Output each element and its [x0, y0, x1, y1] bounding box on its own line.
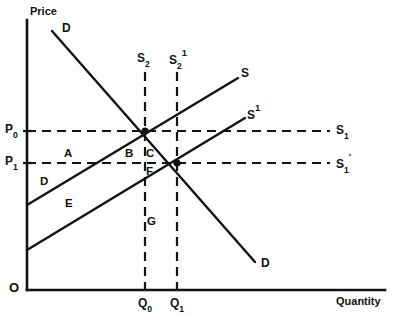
s1-label-base: S — [336, 123, 344, 137]
quantity-tick-sub-q1: 1 — [179, 304, 184, 314]
demand-curve-label-top: D — [62, 22, 71, 34]
price-tick-label-p1: P1 — [5, 155, 18, 170]
supply-demand-figure: Price Quantity O P0 P1 Q0 Q1 D D S S1 S1… — [0, 0, 401, 316]
price-tick-sub-p0: 0 — [13, 130, 18, 140]
s2-vertical-label: S2 — [137, 52, 150, 67]
s2-label-sub: 2 — [145, 59, 150, 69]
s2-prime-label-sup: 1 — [182, 48, 187, 58]
supply-prime-label-base: S — [247, 108, 255, 122]
x-axis-label: Quantity — [336, 296, 381, 307]
axes-group — [27, 20, 385, 290]
quantity-tick-base-q1: Q — [170, 296, 179, 310]
s1-horizontal-label: S1 — [336, 124, 349, 139]
region-label-e: E — [65, 198, 73, 210]
demand-label-base-top: D — [62, 21, 71, 35]
origin-label: O — [9, 281, 19, 294]
s1-prime-horizontal-label: S1′ — [336, 156, 351, 173]
region-label-d: D — [40, 176, 48, 188]
price-tick-sub-p1: 1 — [13, 162, 18, 172]
supply-label-base: S — [241, 66, 249, 80]
s2-prime-vertical-label: S21 — [169, 52, 187, 69]
region-label-b: B — [125, 148, 133, 160]
quantity-tick-label-q1: Q1 — [170, 297, 184, 312]
price-tick-base-p1: P — [5, 154, 13, 168]
equilibrium-point-e1 — [173, 159, 180, 166]
supply-curve-label: S — [241, 67, 249, 79]
quantity-tick-label-q0: Q0 — [138, 297, 152, 312]
s2-prime-label-sub: 2 — [177, 61, 182, 71]
region-label-g: G — [147, 216, 156, 228]
s1-prime-label-sub: 1 — [344, 165, 349, 175]
supply-prime-curve-label: S1 — [247, 107, 260, 121]
s2-prime-label-base: S — [169, 53, 177, 67]
s2-label-base: S — [137, 51, 145, 65]
quantity-tick-base-q0: Q — [138, 296, 147, 310]
y-axis-label: Price — [30, 6, 57, 17]
s1-prime-label-base: S — [336, 157, 344, 171]
region-label-f: F — [146, 166, 153, 178]
demand-curve-label-bottom: D — [261, 257, 270, 269]
s1-prime-label-sup: ′ — [349, 152, 351, 162]
s1-label-sub: 1 — [344, 131, 349, 141]
supply-prime-label-sup: 1 — [255, 103, 260, 113]
equilibrium-point-e0 — [141, 127, 148, 134]
quantity-tick-sub-q0: 0 — [147, 304, 152, 314]
region-label-a: A — [64, 148, 72, 160]
price-tick-label-p0: P0 — [5, 123, 18, 138]
region-label-c: C — [146, 148, 154, 160]
dashed-lines-group — [27, 72, 330, 290]
price-tick-base-p0: P — [5, 122, 13, 136]
demand-label-base-bottom: D — [261, 256, 270, 270]
